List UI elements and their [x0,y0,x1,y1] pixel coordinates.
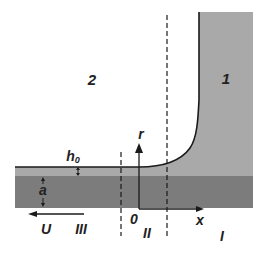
label-fluid-1: 1 [222,70,230,87]
interface-line [15,12,199,167]
meniscus-diagram: 2 1 h0 a r 0 x U III II I [0,0,266,255]
label-zone-II: II [143,225,152,241]
label-origin: 0 [130,211,138,227]
fluid-1-region [15,12,253,176]
r-axis-arrow-icon [135,143,143,153]
label-fluid-2: 2 [87,71,97,88]
velocity-arrow-icon [28,211,37,217]
label-zone-I: I [220,228,225,244]
label-x: x [195,212,205,228]
label-velocity: U [41,221,52,237]
label-a: a [39,182,47,198]
label-h0: h0 [66,148,80,165]
label-zone-III: III [75,221,88,237]
label-r: r [138,126,145,142]
substrate-band [15,176,253,208]
